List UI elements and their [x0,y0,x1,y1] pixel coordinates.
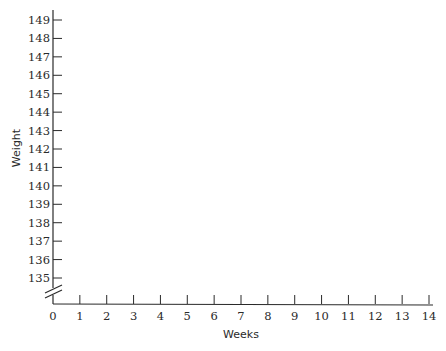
x-tick-label: 3 [130,309,137,323]
y-tick-label: 138 [28,216,50,230]
y-tick-label: 135 [28,271,50,285]
y-tick-label: 148 [28,31,50,45]
chart: 1351361371381391401411421431441451461471… [0,0,446,351]
y-axis-title: Weight [10,128,23,167]
y-tick-label: 149 [28,13,50,27]
y-tick-label: 145 [28,87,50,101]
y-tick-label: 147 [28,50,50,64]
x-tick-label: 6 [210,309,217,323]
x-tick-label: 4 [157,309,164,323]
x-axis-title: Weeks [223,328,259,341]
x-tick-label: 5 [184,309,191,323]
x-tick-label: 2 [103,309,110,323]
y-tick-label: 139 [28,197,50,211]
x-tick-label: 0 [49,309,56,323]
x-tick-label: 14 [422,309,437,323]
x-tick-label: 13 [395,309,410,323]
x-tick-label: 8 [264,309,271,323]
x-axis-line [53,304,433,305]
y-tick-label: 136 [28,253,50,267]
y-tick-label: 137 [28,234,50,248]
x-tick-label: 1 [76,309,83,323]
y-tick-label: 143 [28,124,50,138]
x-tick-label: 9 [291,309,298,323]
x-tick-label: 12 [368,309,383,323]
y-tick-label: 142 [28,142,50,156]
y-tick-label: 141 [28,160,50,174]
x-tick-label: 11 [341,309,356,323]
x-tick-label: 10 [314,309,329,323]
y-tick-label: 144 [28,105,50,119]
x-axis: 01234567891011121314 [49,295,436,323]
y-axis: 1351361371381391401411421431441451461471… [28,10,62,304]
y-tick-label: 140 [28,179,50,193]
x-tick-label: 7 [237,309,244,323]
y-tick-label: 146 [28,68,50,82]
